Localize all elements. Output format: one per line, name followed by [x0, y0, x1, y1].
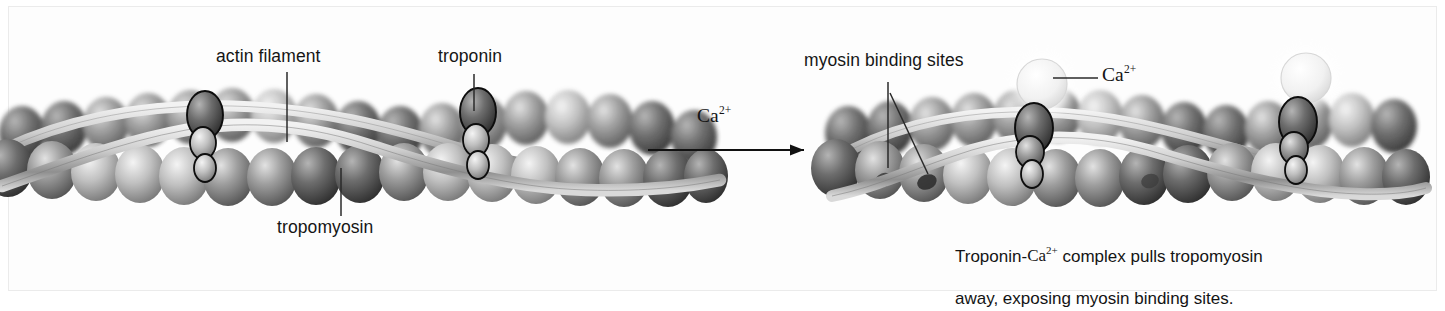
calcium-ion-sphere-2 — [1281, 53, 1331, 103]
arrow-label-calcium-charge: 2+ — [719, 104, 731, 116]
caption-line-2: away, exposing myosin binding sites. — [955, 288, 1385, 310]
label-myosin-binding-sites: myosin binding sites — [804, 50, 964, 71]
label-calcium-ion: Ca2+ — [1102, 63, 1136, 86]
calcium-ion-sphere-1 — [1017, 59, 1067, 109]
caption-calcium-text: Ca — [1027, 246, 1046, 265]
arrow-label-calcium-text: Ca — [697, 105, 719, 126]
caption-activated-state: Troponin-Ca2+ complex pulls tropomyosin … — [955, 219, 1385, 311]
label-calcium-ion-text: Ca — [1102, 64, 1124, 85]
arrow-label-calcium: Ca2+ — [697, 104, 731, 127]
caption-line-1: Troponin-Ca2+ complex pulls tropomyosin — [955, 241, 1385, 267]
caption-calcium-ion: Ca2+ — [1027, 246, 1058, 265]
caption-line-1-post: complex pulls tropomyosin — [1058, 246, 1263, 265]
label-calcium-ion-charge: 2+ — [1124, 63, 1136, 75]
label-tropomyosin: tropomyosin — [277, 217, 373, 238]
caption-line-1-pre: Troponin- — [955, 246, 1027, 265]
label-actin-filament: actin filament — [216, 46, 321, 67]
caption-calcium-charge: 2+ — [1046, 245, 1058, 257]
label-troponin: troponin — [438, 46, 502, 67]
